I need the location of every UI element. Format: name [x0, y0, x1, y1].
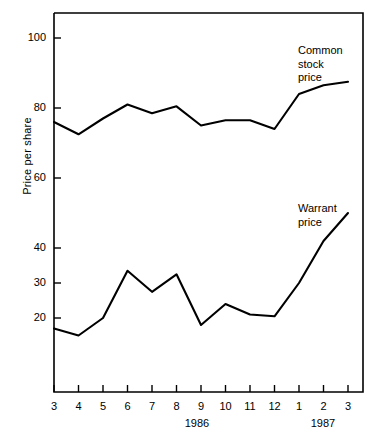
- x-tick-label: 3: [42, 401, 66, 412]
- y-tick-label: 30: [14, 277, 46, 288]
- x-tick-label: 8: [165, 401, 189, 412]
- x-tick-label: 3: [336, 401, 360, 412]
- x-tick-label: 1: [287, 401, 311, 412]
- x-tick-label: 4: [67, 401, 91, 412]
- x-tick-label: 5: [91, 401, 115, 412]
- y-tick-label: 60: [14, 172, 46, 183]
- series-line-common-stock-price: [54, 82, 348, 135]
- x-tick-label: 2: [312, 401, 336, 412]
- x-axis-year-1987: 1987: [293, 418, 353, 429]
- x-tick-label: 7: [140, 401, 164, 412]
- x-axis-ticks: [54, 385, 348, 392]
- y-tick-label: 40: [14, 242, 46, 253]
- series-annotation-common-stock-price: Common stock price: [298, 44, 343, 85]
- x-axis-year-1986: 1986: [167, 418, 227, 429]
- y-axis-title: Price per share: [21, 96, 33, 216]
- x-tick-label: 6: [116, 401, 140, 412]
- series-line-warrant-price: [54, 213, 348, 336]
- series-annotation-warrant-price: Warrant price: [298, 202, 337, 229]
- y-axis-ticks: [54, 38, 61, 318]
- y-tick-label: 80: [14, 102, 46, 113]
- chart-container: Price per share 2030406080100 3456789101…: [0, 0, 379, 441]
- x-tick-label: 10: [214, 401, 238, 412]
- x-tick-label: 12: [263, 401, 287, 412]
- x-tick-label: 9: [189, 401, 213, 412]
- y-tick-label: 20: [14, 312, 46, 323]
- x-tick-label: 11: [238, 401, 262, 412]
- y-tick-label: 100: [14, 32, 46, 43]
